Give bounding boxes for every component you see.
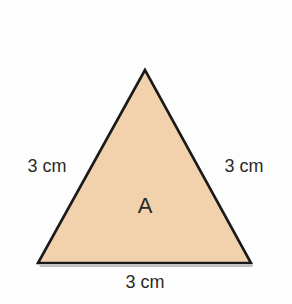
triangle-diagram: A 3 cm 3 cm 3 cm	[0, 0, 292, 304]
center-label: A	[138, 193, 153, 218]
triangle-shadow	[39, 265, 253, 267]
side-label-left: 3 cm	[27, 156, 66, 176]
side-label-bottom: 3 cm	[125, 272, 164, 292]
triangle-a	[38, 70, 251, 263]
side-label-right: 3 cm	[224, 156, 263, 176]
